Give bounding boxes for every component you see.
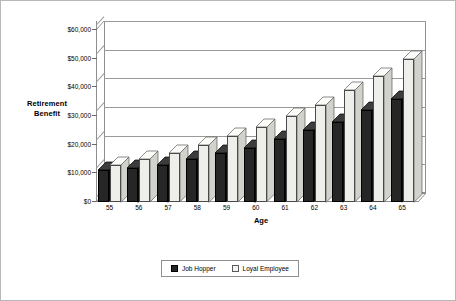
bar-loyal-employee-age-56 xyxy=(139,159,150,202)
bar-front-face xyxy=(256,127,267,202)
chart-legend: Job HopperLoyal Employee xyxy=(161,260,299,277)
bar-front-face xyxy=(227,136,238,202)
legend-label: Job Hopper xyxy=(182,265,216,272)
plot-area xyxy=(96,21,426,201)
y-axis-tick-label: $30,000 xyxy=(43,112,91,119)
y-axis-tick-label: $50,000 xyxy=(43,54,91,61)
x-axis-tick-label-57: 57 xyxy=(156,204,180,211)
bar-loyal-employee-age-55 xyxy=(110,165,121,202)
bar-series-group xyxy=(96,21,426,202)
bar-front-face xyxy=(110,165,121,202)
bar-loyal-employee-age-59 xyxy=(227,136,238,202)
bar-front-face xyxy=(244,148,255,202)
legend-swatch-dark-icon xyxy=(171,265,178,272)
bar-front-face xyxy=(286,116,297,202)
bar-loyal-employee-age-64 xyxy=(373,76,384,202)
bar-front-face xyxy=(391,99,402,202)
bar-loyal-employee-age-61 xyxy=(286,116,297,202)
bar-job-hopper-age-61 xyxy=(274,139,285,202)
bar-job-hopper-age-63 xyxy=(332,122,343,202)
y-axis-tick-label: $60,000 xyxy=(43,26,91,33)
x-axis-tick-label-59: 59 xyxy=(215,204,239,211)
x-axis-tick-label-61: 61 xyxy=(273,204,297,211)
bar-front-face xyxy=(303,130,314,202)
bar-front-face xyxy=(315,105,326,202)
x-axis-tick-label-60: 60 xyxy=(244,204,268,211)
y-axis-tick-labels: $0$10,000$20,000$30,000$40,000$50,000$60… xyxy=(41,1,91,301)
legend-label: Loyal Employee xyxy=(243,265,289,272)
bar-front-face xyxy=(373,76,384,202)
bar-front-face xyxy=(198,145,209,202)
bar-job-hopper-age-55 xyxy=(98,170,109,202)
bar-loyal-employee-age-65 xyxy=(403,59,414,202)
bar-job-hopper-age-58 xyxy=(186,159,197,202)
x-axis-tick-label-58: 58 xyxy=(185,204,209,211)
bar-loyal-employee-age-62 xyxy=(315,105,326,202)
x-axis-title: Age xyxy=(96,216,426,225)
legend-swatch-light-icon xyxy=(232,265,239,272)
bar-front-face xyxy=(139,159,150,202)
x-axis-tick-label-63: 63 xyxy=(332,204,356,211)
bar-front-face xyxy=(169,153,180,202)
bar-job-hopper-age-56 xyxy=(127,168,138,202)
bar-job-hopper-age-65 xyxy=(391,99,402,202)
chart-container: Retirement Benefit $0$10,000$20,000$30,0… xyxy=(0,0,456,301)
legend-item-job-hopper[interactable]: Job Hopper xyxy=(171,265,216,272)
bar-front-face xyxy=(344,90,355,202)
bar-front-face xyxy=(186,159,197,202)
y-axis-tick-label: $40,000 xyxy=(43,83,91,90)
bar-job-hopper-age-64 xyxy=(361,110,372,202)
bar-front-face xyxy=(332,122,343,202)
x-axis-tick-label-62: 62 xyxy=(302,204,326,211)
x-axis-tick-label-55: 55 xyxy=(98,204,122,211)
y-axis-tick-label: $10,000 xyxy=(43,169,91,176)
bar-loyal-employee-age-57 xyxy=(169,153,180,202)
x-axis-tick-label-56: 56 xyxy=(127,204,151,211)
bar-front-face xyxy=(127,168,138,202)
x-axis-tick-label-64: 64 xyxy=(361,204,385,211)
bar-front-face xyxy=(274,139,285,202)
y-axis-tick-label: $20,000 xyxy=(43,140,91,147)
y-axis-tick-label: $0 xyxy=(43,198,91,205)
bar-front-face xyxy=(215,153,226,202)
bar-job-hopper-age-60 xyxy=(244,148,255,202)
bar-front-face xyxy=(98,170,109,202)
bar-job-hopper-age-59 xyxy=(215,153,226,202)
bar-loyal-employee-age-63 xyxy=(344,90,355,202)
legend-item-loyal-employee[interactable]: Loyal Employee xyxy=(232,265,289,272)
bar-job-hopper-age-62 xyxy=(303,130,314,202)
bar-front-face xyxy=(361,110,372,202)
x-axis-tick-label-65: 65 xyxy=(390,204,414,211)
bar-job-hopper-age-57 xyxy=(157,165,168,202)
bar-front-face xyxy=(157,165,168,202)
bar-loyal-employee-age-58 xyxy=(198,145,209,202)
bar-front-face xyxy=(403,59,414,202)
bar-loyal-employee-age-60 xyxy=(256,127,267,202)
